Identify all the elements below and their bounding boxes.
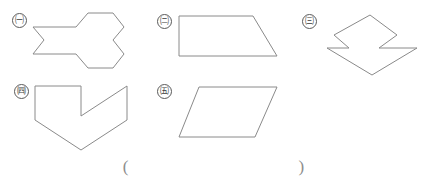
polygon-a	[33, 13, 124, 68]
figure-item-c: ㈢	[295, 0, 427, 80]
answer-row: ( )	[0, 152, 427, 180]
figure-item-d: ㈣	[0, 75, 150, 150]
answer-close-paren: )	[299, 158, 305, 175]
figure-label-c: ㈢	[302, 14, 317, 29]
answer-input[interactable]	[129, 159, 299, 173]
figure-item-a: ㈠	[0, 0, 150, 75]
figure-item-b: ㈡	[150, 0, 295, 75]
figure-label-a: ㈠	[12, 13, 27, 28]
figure-label-b: ㈡	[157, 14, 172, 29]
figure-label-e: ㈤	[157, 84, 172, 99]
polygon-e	[179, 87, 277, 137]
polygon-d	[35, 86, 127, 150]
figure-shape-d	[33, 84, 131, 154]
polygon-c	[327, 15, 417, 75]
figure-label-d: ㈣	[14, 84, 29, 99]
figure-shape-b	[177, 14, 280, 59]
polygon-b	[179, 16, 277, 56]
figure-shape-c	[322, 13, 422, 78]
worksheet-canvas: ㈠ ㈡ ㈢ ㈣ ㈤ ( )	[0, 0, 427, 183]
figure-item-e: ㈤	[150, 75, 295, 150]
figure-shape-e	[177, 85, 280, 140]
figure-shape-a	[28, 10, 130, 72]
